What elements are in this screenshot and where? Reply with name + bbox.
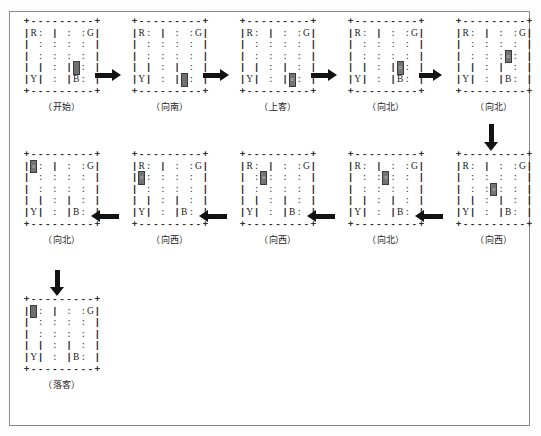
maze-border-seg: - (30, 364, 37, 376)
maze-border-seg: - (66, 16, 73, 28)
maze-wall-v: | (131, 195, 138, 207)
maze-passage: : (66, 39, 73, 51)
maze-wall-v: | (23, 39, 30, 51)
maze-border-seg: - (469, 219, 476, 231)
maze-space (260, 184, 267, 196)
maze-border-seg: - (66, 219, 73, 231)
maze-passage: : (512, 195, 519, 207)
maze-space (289, 51, 296, 63)
maze-border-seg: - (58, 364, 65, 376)
maze-wall-v: | (526, 184, 533, 196)
maze-passage: : (267, 184, 274, 196)
maze-space (58, 62, 65, 74)
landmark-R: R (462, 28, 469, 40)
maze-space (476, 39, 483, 51)
maze-passage: : (361, 39, 368, 51)
maze-border-seg: - (404, 86, 411, 98)
maze-wall-v: | (469, 207, 476, 219)
transition-arrow-left (199, 210, 227, 223)
maze-border-seg: - (37, 219, 44, 231)
maze-grid: +---------+|R: | : :G|| : : : : || : : :… (444, 149, 541, 230)
maze-space (519, 74, 526, 86)
maze-border-seg: + (526, 149, 533, 161)
landmark-G: G (519, 28, 526, 40)
maze-passage: : (282, 184, 289, 196)
maze-space (462, 51, 469, 63)
maze-border-seg: - (490, 219, 497, 231)
maze-border-seg: - (73, 16, 80, 28)
maze-space (246, 172, 253, 184)
maze-wall-v: | (94, 340, 101, 352)
maze-border-seg: - (44, 364, 51, 376)
maze-border-seg: - (73, 86, 80, 98)
maze-passage: : (188, 195, 195, 207)
maze-row: | | : | : | (455, 195, 533, 207)
maze-passage: : (174, 51, 181, 63)
maze-step-s7: +---------+|R: | : :G|| : : : : || : : :… (336, 149, 436, 246)
maze-passage: : (80, 317, 87, 329)
maze-border-seg: - (188, 86, 195, 98)
maze-space (44, 340, 51, 352)
maze-space (490, 195, 497, 207)
maze-space (289, 195, 296, 207)
maze-passage: : (512, 39, 519, 51)
maze-border-seg: - (166, 86, 173, 98)
maze-wall-v: | (37, 207, 44, 219)
maze-passage: : (375, 195, 382, 207)
maze-border-seg: + (455, 149, 462, 161)
maze-space (166, 172, 173, 184)
maze-passage: : (80, 74, 87, 86)
maze-border-seg: - (37, 294, 44, 306)
maze-passage: : (37, 28, 44, 40)
maze-space (30, 172, 37, 184)
maze-passage: : (375, 51, 382, 63)
maze-passage: : (145, 172, 152, 184)
maze-border-seg: - (390, 219, 397, 231)
maze-passage: : (159, 62, 166, 74)
maze-row: |Y| : |B: | (131, 207, 209, 219)
maze-space (354, 195, 361, 207)
passenger-glyph: ▫ (506, 50, 511, 64)
maze-space (289, 39, 296, 51)
maze-space (490, 161, 497, 173)
maze-passage: : (390, 51, 397, 63)
maze-border-seg: - (303, 86, 310, 98)
maze-border-top: +---------+ (347, 149, 425, 161)
maze-border-seg: - (289, 16, 296, 28)
maze-passage: : (66, 28, 73, 40)
maze-border-seg: - (469, 16, 476, 28)
maze-border-seg: - (166, 219, 173, 231)
maze-space (382, 184, 389, 196)
maze-wall-v: | (455, 51, 462, 63)
maze-space (138, 51, 145, 63)
maze-border-seg: + (23, 364, 30, 376)
maze-border-seg: - (66, 86, 73, 98)
maze-passage: : (498, 161, 505, 173)
maze-border-seg: - (519, 86, 526, 98)
maze-border-seg: - (181, 149, 188, 161)
maze-passage: : (66, 161, 73, 173)
maze-row: | | : | : | (455, 62, 533, 74)
maze-row: |Y| : |B: | (131, 74, 209, 86)
maze-wall-v: | (131, 39, 138, 51)
maze-border-seg: - (505, 16, 512, 28)
maze-wall-v: | (469, 74, 476, 86)
maze-border-seg: - (303, 16, 310, 28)
maze-border-bottom: +---------+ (455, 86, 533, 98)
maze-row: | | : | : | (131, 62, 209, 74)
maze-border-seg: - (44, 219, 51, 231)
maze-border-seg: - (411, 86, 418, 98)
maze-border-seg: - (476, 16, 483, 28)
maze-passage: : (174, 172, 181, 184)
maze-wall-v: | (526, 28, 533, 40)
passenger-glyph: ▫ (31, 160, 36, 174)
maze-wall-v: | (347, 161, 354, 173)
maze-border-seg: - (361, 16, 368, 28)
maze-border-seg: - (462, 16, 469, 28)
maze-passage: : (174, 28, 181, 40)
maze-border-bottom: +---------+ (23, 86, 101, 98)
maze-passage: : (174, 184, 181, 196)
maze-border-seg: + (526, 16, 533, 28)
maze-space (397, 161, 404, 173)
maze-row: | : : : : | (239, 172, 317, 184)
